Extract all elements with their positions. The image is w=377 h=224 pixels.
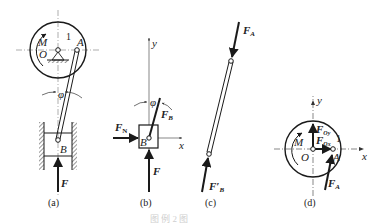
label-y: y <box>151 37 157 49</box>
mechanism-diagram: M O A 1 φ B F (a) y x φ FN FB B F (b) <box>0 0 377 224</box>
caption-c: (c) <box>205 197 216 209</box>
label-A: A <box>332 151 340 163</box>
cylinder-wall-left <box>39 122 44 170</box>
label-FB-prime: F′B <box>208 180 224 194</box>
panel-a: M O A 1 φ B F (a) <box>16 10 100 209</box>
force-FB-prime-arrow-icon <box>202 158 208 192</box>
label-x: x <box>361 150 367 162</box>
pivot-O <box>56 48 61 53</box>
caption-a: (a) <box>48 197 59 209</box>
label-M: M <box>293 136 304 148</box>
pin-B <box>207 152 212 157</box>
panel-d: y x M O A FOy FOx 1 FA (d) <box>274 94 367 209</box>
pivot-O <box>311 147 316 152</box>
label-1: 1 <box>336 133 341 144</box>
pivot-support-icon <box>52 52 64 60</box>
figure-caption: 图 例 2 图 <box>150 213 188 224</box>
label-B: B <box>60 143 67 155</box>
label-x: x <box>178 139 184 151</box>
force-FA-arrow-icon <box>232 22 239 57</box>
rod-side-left <box>207 62 229 152</box>
pin-B <box>147 136 151 140</box>
label-y: y <box>316 94 322 106</box>
rod-side-right <box>211 62 233 153</box>
label-FA: FA <box>242 24 255 38</box>
label-FB: FB <box>160 108 173 122</box>
label-F: F <box>152 165 161 177</box>
label-O: O <box>39 48 47 60</box>
label-B: B <box>140 136 147 148</box>
panel-c: FA F′B (c) <box>202 22 255 209</box>
pin-A <box>229 59 234 64</box>
label-FN: FN <box>114 121 127 135</box>
pin-A <box>75 48 80 53</box>
pin-B <box>56 138 61 143</box>
label-M: M <box>37 36 48 48</box>
caption-d: (d) <box>304 197 316 209</box>
label-A: A <box>76 36 84 48</box>
label-O: O <box>301 151 309 163</box>
label-F: F <box>60 177 69 189</box>
panel-b: y x φ FN FB B F (b) <box>113 37 184 209</box>
label-phi: φ <box>58 88 64 100</box>
label-phi: φ <box>150 96 156 108</box>
cylinder-wall-right <box>72 122 77 170</box>
label-FA: FA <box>327 177 340 191</box>
label-1: 1 <box>66 31 71 42</box>
caption-b: (b) <box>140 197 152 209</box>
